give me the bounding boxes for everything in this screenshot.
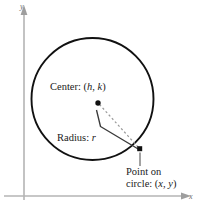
circle-point-marker (137, 146, 142, 151)
circle-diagram: y x Center: (h, k) Radius: r Point on ci… (0, 0, 200, 211)
radius-label: Radius: r (57, 132, 96, 144)
y-axis (21, 5, 28, 200)
center-label-prefix: Center: ( (50, 81, 87, 92)
point-label-line1: Point on (126, 166, 176, 178)
center-label: Center: (h, k) (50, 81, 106, 93)
point-label-suffix: ) (173, 178, 177, 189)
point-label-line2: circle: (x, y) (126, 178, 176, 190)
center-label-suffix: ) (102, 81, 106, 92)
x-axis-label: x (189, 192, 193, 201)
center-point-marker (95, 100, 100, 105)
x-axis (4, 193, 191, 200)
point-on-circle-label: Point on circle: (x, y) (126, 166, 176, 190)
radius-label-prefix: Radius: (57, 132, 92, 143)
y-axis-label: y (20, 2, 24, 11)
radius-leader-line (97, 110, 140, 150)
radius-dashed-segment (100, 105, 139, 148)
point-label-prefix: circle: ( (126, 178, 158, 189)
radius-label-var-r: r (92, 132, 96, 143)
